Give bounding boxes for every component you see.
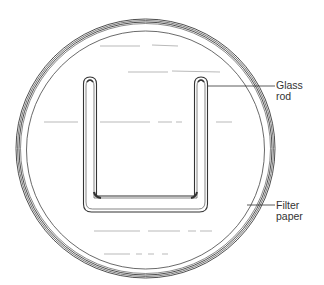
filter-paper-label: Filter paper: [276, 200, 303, 222]
filter-paper-label-line2: paper: [276, 211, 303, 222]
petri-dish-rim: [16, 19, 275, 278]
paper-texture-lines: [44, 45, 232, 254]
petri-dish-diagram: [0, 0, 324, 285]
glass-rod-label-line2: rod: [276, 91, 303, 102]
filter-paper-edge: [27, 31, 265, 269]
glass-rod-label: Glass rod: [276, 80, 303, 102]
glass-rod: [84, 77, 208, 212]
